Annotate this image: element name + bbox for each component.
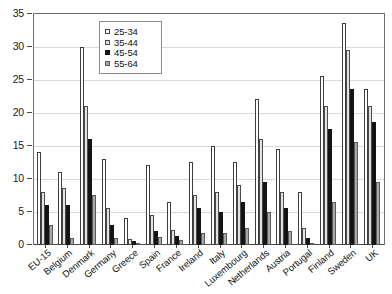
- y-tick-mark: [27, 79, 32, 80]
- bar: [201, 233, 205, 245]
- y-tick-label: 30: [0, 41, 24, 51]
- bar-group: [276, 14, 292, 245]
- y-tick-mark: [27, 112, 32, 113]
- bar: [158, 237, 162, 245]
- bar: [376, 182, 380, 245]
- bar-group: [364, 14, 380, 245]
- bar-group: [255, 14, 271, 245]
- bar-group: [211, 14, 227, 245]
- bar: [354, 142, 358, 244]
- bar-group: [80, 14, 96, 245]
- x-tick-label: Ireland: [176, 247, 205, 274]
- y-axis: 05101520253035: [0, 13, 30, 245]
- x-axis: EU-15BelgiumDenmarkGermanyGreeceSpainFra…: [0, 247, 392, 294]
- bar-group: [37, 14, 53, 245]
- legend-label-2: 45-54: [114, 48, 138, 58]
- x-tick-label: UK: [363, 247, 380, 264]
- bar: [49, 225, 53, 245]
- bar-group: [320, 14, 336, 245]
- bar-group: [189, 14, 205, 245]
- bar: [288, 231, 292, 244]
- legend-item-2: 45-54: [105, 48, 156, 58]
- bar-group: [167, 14, 183, 245]
- y-tick-label: 5: [0, 206, 24, 216]
- y-tick-mark: [27, 13, 32, 14]
- legend-swatch-icon-0: [105, 29, 110, 34]
- y-tick-label: 25: [0, 74, 24, 84]
- y-tick-mark: [27, 211, 32, 212]
- bar: [70, 238, 74, 245]
- bar: [136, 243, 140, 245]
- bar-chart: 05101520253035 EU-15BelgiumDenmarkGerman…: [0, 0, 392, 294]
- y-tick-label: 10: [0, 173, 24, 183]
- legend-label-1: 35-44: [114, 38, 138, 48]
- bar: [223, 233, 227, 245]
- bar: [114, 238, 118, 245]
- bar-group: [342, 14, 358, 245]
- legend: 25-34 35-44 45-54 55-64: [99, 21, 162, 74]
- bar: [179, 240, 183, 245]
- bar: [245, 228, 249, 245]
- legend-item-3: 55-64: [105, 59, 156, 69]
- y-tick-mark: [27, 46, 32, 47]
- bar: [92, 195, 96, 245]
- y-tick-mark: [27, 244, 32, 245]
- y-tick-label: 35: [0, 8, 24, 18]
- legend-swatch-icon-1: [105, 40, 110, 45]
- y-tick-mark: [27, 178, 32, 179]
- y-tick-label: 20: [0, 107, 24, 117]
- bars-layer: [35, 14, 384, 245]
- legend-label-3: 55-64: [114, 59, 138, 69]
- bar-group: [58, 14, 74, 245]
- bar-group: [233, 14, 249, 245]
- bar: [267, 212, 271, 245]
- legend-swatch-icon-2: [105, 50, 110, 55]
- y-tick-mark: [27, 145, 32, 146]
- y-tick-label: 15: [0, 140, 24, 150]
- legend-swatch-icon-3: [105, 61, 110, 66]
- bar: [332, 202, 336, 245]
- legend-item-0: 25-34: [105, 27, 156, 37]
- bar-group: [298, 14, 314, 245]
- legend-item-1: 35-44: [105, 38, 156, 48]
- bar: [310, 243, 314, 245]
- legend-label-0: 25-34: [114, 27, 138, 37]
